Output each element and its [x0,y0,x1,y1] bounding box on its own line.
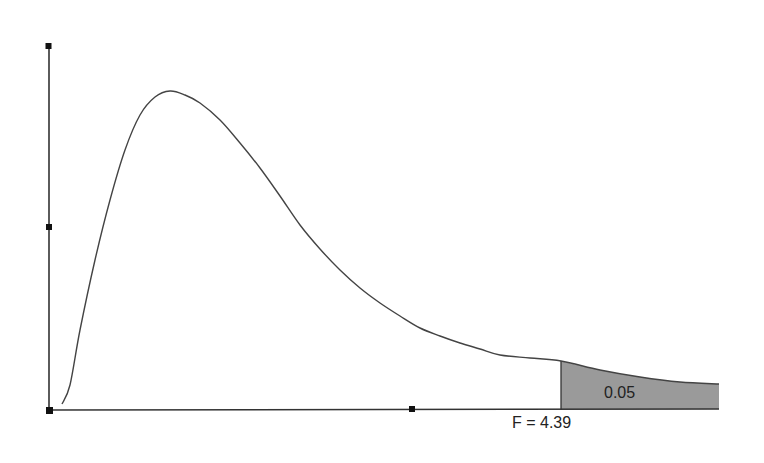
y-tick-top [46,43,52,49]
origin-tick [46,407,53,414]
shaded-area-label: 0.05 [604,384,635,402]
y-tick-mid [46,224,52,230]
x-tick-mid [409,406,415,412]
f-distribution-chart [0,0,764,463]
critical-value-label: F = 4.39 [512,414,571,432]
density-curve [62,91,719,404]
x-axis [49,409,719,410]
rejection-region-shade [561,361,719,410]
